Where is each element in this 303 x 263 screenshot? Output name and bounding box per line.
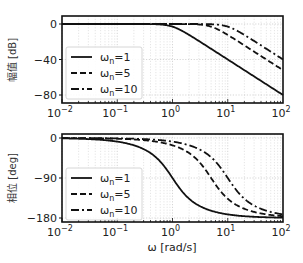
x-tick-label: 100 <box>161 224 180 239</box>
magnitude-legend: ωn=1ωn=5ωn=10 <box>66 47 142 99</box>
phase-panel: 0−90−18010−210−1100101102 ωn=1ωn=5ωn=10 … <box>6 132 291 239</box>
y-tick-label: 0 <box>50 132 57 145</box>
legend-label: ωn=5 <box>100 188 131 203</box>
x-tick-label: 10−1 <box>102 224 128 239</box>
legend-label: ωn=5 <box>100 67 131 82</box>
x-tick-label: 101 <box>216 105 235 120</box>
x-tick-label: 102 <box>271 224 290 239</box>
x-tick-label: 10−2 <box>47 105 73 120</box>
x-tick-label: 100 <box>161 105 180 120</box>
x-tick-label: 10−1 <box>102 105 128 120</box>
x-tick-label: 10−2 <box>47 224 73 239</box>
y-tick-label: −80 <box>34 89 57 102</box>
x-axis-label: ω [rad/s] <box>148 241 197 254</box>
legend-label: ωn=10 <box>100 83 138 98</box>
magnitude-panel: 0−40−8010−210−1100101102 ωn=1ωn=5ωn=10 幅… <box>6 16 291 120</box>
y-tick-label: 0 <box>50 18 57 31</box>
magnitude-y-axis-label: 幅值 [dB] <box>6 38 18 82</box>
legend-label: ωn=1 <box>100 172 131 187</box>
y-tick-label: −40 <box>34 54 57 67</box>
x-tick-label: 101 <box>216 224 235 239</box>
phase-y-axis-label: 相位 [deg] <box>6 153 18 203</box>
phase-legend: ωn=1ωn=5ωn=10 <box>66 168 142 220</box>
y-tick-label: −180 <box>27 212 57 225</box>
legend-label: ωn=10 <box>100 204 138 219</box>
bode-plot: 0−40−8010−210−1100101102 ωn=1ωn=5ωn=10 幅… <box>0 0 303 263</box>
legend-label: ωn=1 <box>100 51 131 66</box>
x-tick-label: 102 <box>271 105 290 120</box>
y-tick-label: −90 <box>34 172 57 185</box>
